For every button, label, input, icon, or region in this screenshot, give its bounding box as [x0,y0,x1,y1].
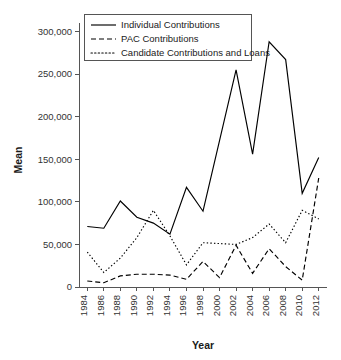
legend-label: Individual Contributions [121,19,220,30]
x-tick-label: 2008 [277,295,288,316]
y-tick-label: 250,000 [38,68,72,79]
x-tick-label: 1992 [144,295,155,316]
x-tick-label: 1986 [95,295,106,316]
series-line [87,42,318,234]
x-tick-label: 1990 [128,295,139,316]
y-tick-marks [75,32,79,287]
x-tick-label: 2000 [211,295,222,316]
y-tick-label: 0 [67,281,72,292]
line-chart-plot: 050,000100,000150,000200,000250,000300,0… [0,0,341,360]
x-tick-label: 2004 [244,295,255,316]
x-tick-label: 2012 [310,295,321,316]
series-line [87,210,318,272]
series-line [87,178,318,283]
legend-label: PAC Contributions [121,33,199,44]
x-tick-label: 1996 [177,295,188,316]
x-axis-title: Year [192,339,214,351]
x-tick-labels: 1984198619881990199219941996199820002002… [78,295,320,316]
y-axis-title: Mean [12,147,24,174]
x-tick-label: 1998 [194,295,205,316]
data-series-group [87,42,318,283]
x-axis-group: 1984198619881990199219941996199820002002… [78,287,327,351]
x-tick-label: 1994 [161,295,172,316]
y-axis-group: 050,000100,000150,000200,000250,000300,0… [12,23,79,292]
x-tick-label: 2010 [293,295,304,316]
x-tick-label: 1984 [78,295,89,316]
x-tick-label: 2006 [260,295,271,316]
legend-label: Candidate Contributions and Loans [121,47,270,58]
y-tick-labels: 050,000100,000150,000200,000250,000300,0… [38,26,72,292]
y-tick-label: 100,000 [38,196,72,207]
y-tick-label: 200,000 [38,111,72,122]
y-tick-label: 300,000 [38,26,72,37]
x-tick-label: 1988 [111,295,122,316]
x-tick-label: 2002 [227,295,238,316]
chart-legend: Individual ContributionsPAC Contribution… [84,14,270,60]
y-tick-label: 150,000 [38,154,72,165]
x-tick-marks [87,287,318,291]
chart-figure: 050,000100,000150,000200,000250,000300,0… [0,0,341,360]
y-tick-label: 50,000 [43,239,72,250]
